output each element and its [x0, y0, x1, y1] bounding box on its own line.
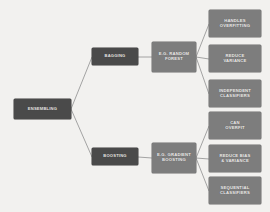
node-gradient-boosting-label: E.G. GRADIENT BOOSTING	[157, 153, 191, 163]
node-independent-classifiers-label: INDEPENDENT CLASSIFIERS	[219, 89, 251, 99]
edge-gb-can-overfit	[196, 126, 209, 158]
node-reduce-variance: REDUCE VARIANCE	[209, 45, 261, 72]
node-handles-overfitting-label: HANDLES OVERFITTING	[220, 19, 250, 29]
node-reduce-bias-variance: REDUCE BIAS & VARIANCE	[209, 145, 261, 172]
node-random-forest: E.G. RANDOM FOREST	[152, 42, 196, 72]
edge-gb-reduce-bias-variance	[196, 158, 209, 159]
node-handles-overfitting: HANDLES OVERFITTING	[209, 10, 261, 37]
edge-gb-sequential-classifiers	[196, 158, 209, 191]
node-reduce-bias-variance-label: REDUCE BIAS & VARIANCE	[219, 154, 250, 164]
edge-root-bagging	[71, 57, 92, 109]
node-boosting-label: BOOSTING	[103, 154, 126, 159]
node-bagging-label: BAGGING	[105, 54, 126, 59]
edge-rf-reduce-variance	[196, 57, 209, 59]
edge-boosting-gradient-boosting	[138, 157, 152, 158]
node-sequential-classifiers-label: SEQUENTIAL CLASSIFIERS	[220, 186, 250, 196]
edge-root-boosting	[71, 109, 92, 157]
node-independent-classifiers: INDEPENDENT CLASSIFIERS	[209, 80, 261, 107]
node-can-overfit: CAN OVERFIT	[209, 112, 261, 139]
node-ensembling-label: ENSEMBLING	[28, 107, 57, 112]
node-boosting: BOOSTING	[92, 148, 138, 165]
ensembling-tree-diagram: ENSEMBLING BAGGING BOOSTING E.G. RANDOM …	[0, 0, 270, 212]
node-reduce-variance-label: REDUCE VARIANCE	[223, 54, 246, 64]
node-bagging: BAGGING	[92, 48, 138, 65]
edge-rf-independent-classifiers	[196, 57, 209, 94]
node-ensembling: ENSEMBLING	[14, 99, 71, 119]
node-gradient-boosting: E.G. GRADIENT BOOSTING	[152, 143, 196, 173]
node-sequential-classifiers: SEQUENTIAL CLASSIFIERS	[209, 177, 261, 204]
node-random-forest-label: E.G. RANDOM FOREST	[159, 52, 190, 62]
edge-rf-handles-overfitting	[196, 24, 209, 57]
node-can-overfit-label: CAN OVERFIT	[225, 121, 245, 131]
